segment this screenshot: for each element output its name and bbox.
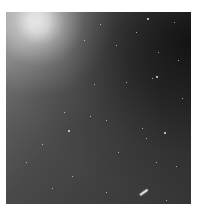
star: [152, 78, 153, 79]
star: [68, 130, 70, 132]
star: [156, 76, 158, 78]
star: [178, 60, 179, 61]
star: [164, 132, 166, 134]
star: [42, 144, 43, 145]
star: [118, 152, 119, 153]
star: [147, 18, 149, 20]
star: [64, 112, 65, 113]
star: [156, 162, 157, 163]
star: [106, 192, 107, 193]
star: [176, 166, 177, 167]
star: [94, 84, 95, 85]
star: [84, 40, 85, 41]
star: [126, 82, 127, 83]
nebula-haze: [6, 12, 191, 204]
star: [158, 52, 159, 53]
star: [116, 45, 117, 46]
star: [166, 200, 167, 201]
star: [106, 120, 107, 121]
star-field-image: [6, 12, 191, 204]
star: [142, 128, 143, 129]
star: [52, 188, 53, 189]
star: [90, 116, 91, 117]
star: [136, 32, 137, 33]
star: [174, 22, 175, 23]
star: [100, 24, 101, 25]
star: [182, 98, 183, 99]
star: [26, 162, 27, 163]
star: [146, 138, 147, 139]
star: [72, 176, 73, 177]
